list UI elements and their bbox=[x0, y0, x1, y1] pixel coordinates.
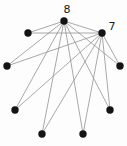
graph-node-hub-8[interactable] bbox=[60, 17, 67, 24]
graph-node-node-left[interactable] bbox=[3, 62, 10, 69]
graph-node-node-lower-right[interactable] bbox=[106, 106, 113, 113]
edges-layer bbox=[7, 21, 120, 134]
node-label-hub-7: 7 bbox=[109, 20, 116, 33]
edge-hub-7--node-lower-right bbox=[102, 33, 110, 110]
graph-node-hub-7[interactable] bbox=[98, 29, 105, 36]
graph-node-node-lower-left[interactable] bbox=[11, 106, 18, 113]
edge-hub-8--node-bottom-left bbox=[42, 21, 64, 134]
labels-layer: 87 bbox=[64, 3, 116, 33]
edge-hub-8--node-lower-left bbox=[15, 21, 64, 110]
nodes-layer bbox=[3, 17, 123, 137]
graph-node-node-bottom-left[interactable] bbox=[38, 130, 45, 137]
edge-hub-7--node-bottom-left bbox=[42, 33, 102, 134]
edge-hub-8--node-left bbox=[7, 21, 64, 66]
graph-node-node-right[interactable] bbox=[116, 62, 123, 69]
graph-node-node-upper-left[interactable] bbox=[24, 29, 31, 36]
graph-node-node-bottom-right[interactable] bbox=[79, 130, 86, 137]
edge-hub-8--hub-7 bbox=[64, 21, 102, 33]
graph-canvas: 87 bbox=[0, 0, 127, 146]
graph-figure: 87 bbox=[0, 0, 127, 146]
edge-hub-7--node-lower-left bbox=[15, 33, 102, 110]
edge-hub-8--node-bottom-right bbox=[64, 21, 83, 134]
node-label-hub-8: 8 bbox=[64, 3, 71, 16]
edge-hub-7--node-bottom-right bbox=[83, 33, 102, 134]
